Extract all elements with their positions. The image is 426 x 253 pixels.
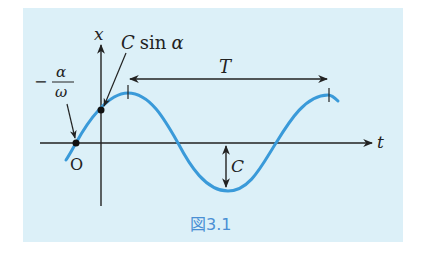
x-axis-label: x (94, 24, 104, 44)
initial-value-label: Csinα (121, 32, 184, 53)
figure-caption: 図3.1 (190, 215, 231, 234)
origin-label: O (70, 155, 83, 174)
amplitude-label: C (231, 156, 244, 176)
period-label: T (219, 56, 233, 77)
t-axis-label: t (377, 132, 384, 152)
phase-numerator: α (56, 63, 66, 81)
intercept-dot (98, 107, 105, 114)
sine-wave-diagram: x t O Csinα − α ω T C 図3.1 (0, 0, 426, 253)
phase-denominator: ω (55, 83, 67, 101)
phase-pointer (67, 104, 75, 138)
phase-zero-dot (73, 140, 80, 147)
phase-minus-sign: − (34, 72, 47, 91)
sine-curve (66, 93, 338, 191)
